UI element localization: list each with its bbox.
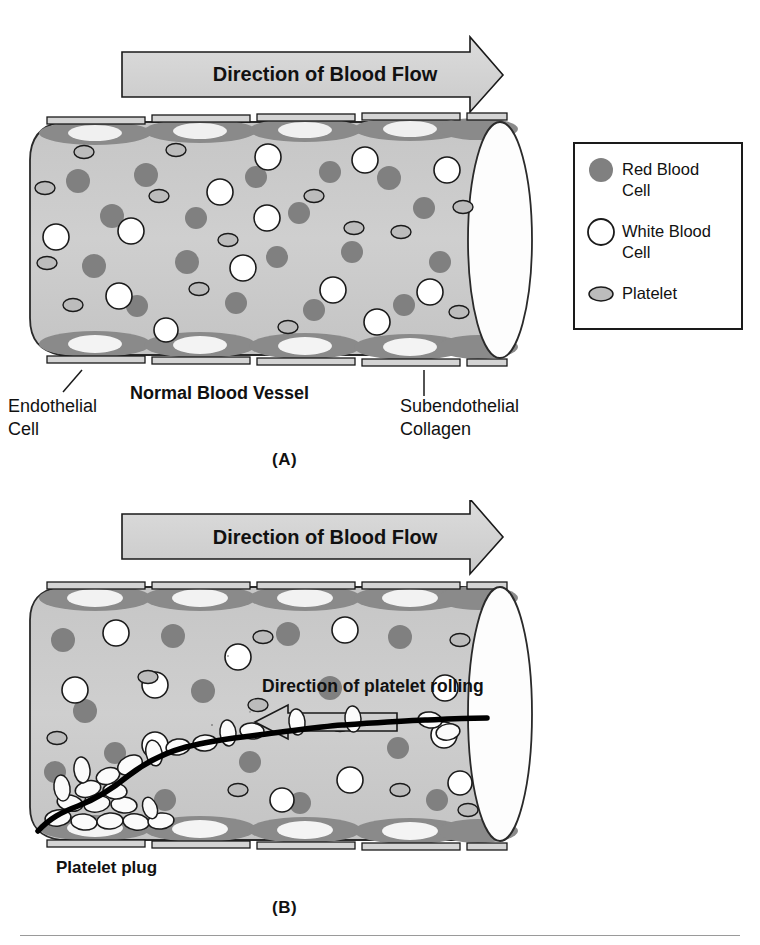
vessel-open-end-a xyxy=(468,122,532,358)
flow-arrow-label-b: Direction of Blood Flow xyxy=(175,526,475,550)
legend-rbc-icon xyxy=(589,158,613,182)
panel-label-b: (B) xyxy=(272,898,297,918)
rolling-arrow-label-b: Direction of platelet rolling xyxy=(262,676,484,697)
subendothelial-collagen-label-line2: Collagen xyxy=(400,419,471,440)
legend-box: Red Blood Cell White Blood Cell Platelet xyxy=(573,142,743,330)
platelet-plug-label: Platelet plug xyxy=(56,858,157,878)
vessel-caption-a: Normal Blood Vessel xyxy=(130,383,309,404)
collagen-top-b xyxy=(47,582,507,589)
panel-b-graphic xyxy=(0,500,760,945)
subendothelial-collagen-label-line1: Subendothelial xyxy=(400,396,519,417)
legend-wbc-icon xyxy=(588,219,614,245)
legend-item-2-line1: Platelet xyxy=(622,284,677,303)
legend-item-1-line2: Cell xyxy=(622,243,650,262)
figure-bottom-rule xyxy=(20,935,740,936)
flow-arrow-label-a: Direction of Blood Flow xyxy=(175,63,475,87)
vessel-open-end-b xyxy=(468,587,532,841)
endothelial-cell-label-line2: Cell xyxy=(8,419,39,440)
legend-item-1-line1: White Blood xyxy=(622,222,711,241)
legend-item-0-line2: Cell xyxy=(622,181,650,200)
endothelial-cell-label-line1: Endothelial xyxy=(8,396,97,417)
panel-label-a: (A) xyxy=(272,450,297,470)
legend-platelet-icon xyxy=(589,287,613,301)
figure-canvas: Direction of Blood Flow Normal Blood Ves… xyxy=(0,0,760,945)
legend-item-0-line1: Red Blood xyxy=(622,160,699,179)
